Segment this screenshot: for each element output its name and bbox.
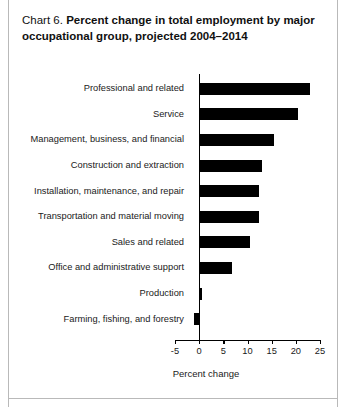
x-axis-tick [199,340,200,344]
x-axis: -50510152025 Percent change [0,340,346,400]
bar [199,185,258,197]
bar-category-label: Service [0,109,192,120]
chart-number: Chart 6. [22,14,63,26]
bar-category-label: Transportation and material moving [0,211,192,222]
bar-category-label: Sales and related [0,237,192,248]
page-title: Percent change in total employment by ma… [22,14,315,42]
bar-category-label: Production [0,288,192,299]
bar-row: Sales and related [0,230,346,256]
x-axis-tick-label: 15 [266,346,276,357]
bar-row: Professional and related [0,76,346,102]
bar [199,160,261,172]
bar [199,83,310,95]
bar-category-label: Farming, fishing, and forestry [0,314,192,325]
x-axis-tick [320,340,321,344]
bar-track [192,306,346,332]
x-axis-tick-label: 5 [221,346,226,357]
x-axis-tick-label: 0 [197,346,202,357]
bar-track [192,230,346,256]
bar-row: Construction and extraction [0,153,346,179]
x-axis-tick [175,340,176,344]
bar-row: Management, business, and financial [0,127,346,153]
zero-axis-line [199,74,200,342]
bar-track [192,76,346,102]
x-axis-tick-label: 10 [242,346,252,357]
bar-row: Installation, maintenance, and repair [0,178,346,204]
bar-category-label: Management, business, and financial [0,134,192,145]
x-axis-tick-label: 25 [315,346,325,357]
bar [199,108,298,120]
x-axis-title: Percent change [0,368,346,379]
bar-track [192,281,346,307]
bar-category-label: Office and administrative support [0,262,192,273]
x-axis-tick-label: -5 [171,346,179,357]
bar-track [192,178,346,204]
bar-category-label: Professional and related [0,83,192,94]
bar-row: Service [0,102,346,128]
bar-track [192,204,346,230]
bar-row: Farming, fishing, and forestry [0,306,346,332]
bar-row: Production [0,281,346,307]
bar [199,134,273,146]
bar [199,262,232,274]
x-axis-title-label: Percent change [173,368,240,379]
x-axis-tick [248,340,249,344]
bar [199,211,258,223]
bar-row: Office and administrative support [0,255,346,281]
bar-category-label: Installation, maintenance, and repair [0,186,192,197]
bar-track [192,153,346,179]
bar-track [192,127,346,153]
x-axis-tick [223,340,224,344]
bar-rows: Professional and relatedServiceManagemen… [0,76,346,332]
bar-track [192,102,346,128]
chart-title-block: Chart 6. Percent change in total employm… [22,12,322,44]
bar-category-label: Construction and extraction [0,160,192,171]
x-axis-tick-label: 20 [291,346,301,357]
bar-track [192,255,346,281]
bar-row: Transportation and material moving [0,204,346,230]
x-axis-tick [272,340,273,344]
x-axis-tick [296,340,297,344]
bar [199,236,250,248]
plot-area: Professional and relatedServiceManagemen… [0,72,346,342]
chart-page: Chart 6. Percent change in total employm… [0,0,346,407]
